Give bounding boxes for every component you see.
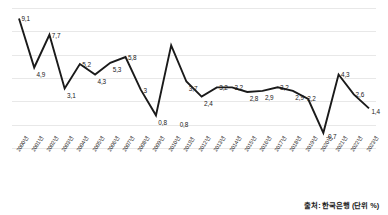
data-label: 1,4 [371,109,380,115]
data-label: 0,8 [158,120,167,126]
series-line [12,8,376,148]
plot-area: 9,14,97,73,15,24,35,35,830,83,72,43,23,2… [12,8,376,148]
data-label: 3,2 [280,85,289,91]
data-label: 2,6 [356,92,365,98]
gdp-growth-line-chart: 9,14,97,73,15,24,35,35,830,83,72,43,23,2… [0,0,388,215]
data-label: 5,3 [113,67,122,73]
data-label: 7,7 [52,33,61,39]
source-note: 출처: 한국은행 (단위 %) [304,199,379,210]
data-label: 3,1 [67,93,76,99]
data-label: 3,2 [234,85,243,91]
data-label: 4,3 [97,79,106,85]
data-label: 4,9 [37,72,46,78]
series-polyline [19,19,369,133]
data-label: 9,1 [21,16,30,22]
data-label: 5,2 [82,62,91,68]
data-label: 3 [144,88,147,94]
data-label: 5,8 [128,55,137,61]
x-axis-tick-labels: 2000년2001년2002년2003년2004년2005년2006년2007년… [12,150,376,195]
data-label: 3,2 [219,85,228,91]
data-label: 3,7 [189,86,198,92]
data-label: 2,4 [204,101,213,107]
data-label: 4,3 [341,72,350,78]
data-label: 2,9 [295,95,304,101]
data-label-floating: 0,8 [180,122,189,128]
data-label: 2,2 [307,96,316,102]
data-label: 2,9 [265,95,274,101]
data-label: 2,8 [250,96,259,102]
